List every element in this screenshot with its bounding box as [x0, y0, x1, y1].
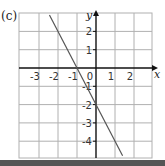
- x-tick-label: -3: [30, 71, 40, 82]
- x-tick-label: 2: [127, 71, 133, 82]
- x-tick-label: -2: [49, 71, 59, 82]
- y-tick-label: 1: [86, 45, 92, 56]
- x-tick-label: -1: [68, 71, 78, 82]
- y-tick-label: -3: [82, 118, 92, 129]
- x-axis-label: x: [154, 68, 161, 81]
- y-tick-label: -4: [82, 136, 92, 147]
- y-tick-label: 2: [86, 26, 92, 37]
- y-tick-label: -2: [82, 100, 92, 111]
- x-tick-label: 1: [108, 71, 114, 82]
- y-axis-label: y: [85, 9, 93, 22]
- bottom-bar: [0, 160, 165, 166]
- coordinate-graph: xy-3-2-1012-4-3-2-112: [0, 0, 165, 166]
